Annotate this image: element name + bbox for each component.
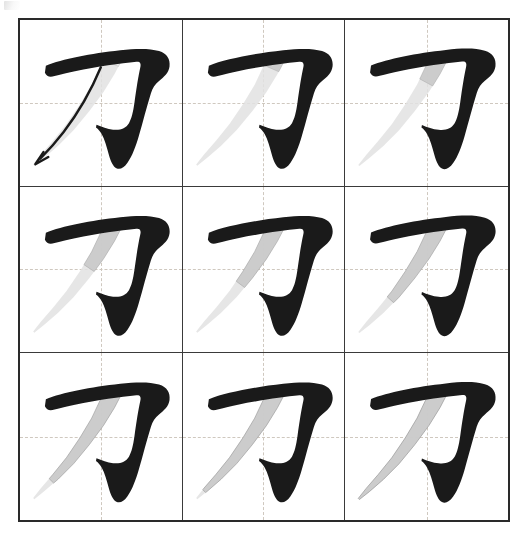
scan-artifact: [4, 1, 20, 10]
stroke-frame-3: [345, 20, 508, 187]
stroke-frame-9: [345, 353, 508, 520]
kanji-glyph-7: [20, 353, 182, 520]
kanji-glyph-5: [183, 187, 345, 353]
stroke-frame-2: [183, 20, 346, 187]
kanji-glyph-9: [345, 353, 508, 520]
stroke-order-grid: [18, 18, 510, 522]
kanji-glyph-3: [345, 20, 508, 186]
stroke-frame-7: [20, 353, 183, 520]
stroke-frame-8: [183, 353, 346, 520]
kanji-glyph-6: [345, 187, 508, 353]
stroke-frame-1: [20, 20, 183, 187]
kanji-glyph-2: [183, 20, 345, 186]
stroke-frame-5: [183, 187, 346, 354]
stroke-order-page: [0, 0, 530, 547]
kanji-glyph-1: [20, 20, 182, 186]
stroke-frame-6: [345, 187, 508, 354]
kanji-glyph-8: [183, 353, 345, 520]
kanji-glyph-4: [20, 187, 182, 353]
stroke-direction-arrow: [35, 67, 100, 164]
arrow-shaft: [40, 67, 101, 158]
stroke-frame-4: [20, 187, 183, 354]
